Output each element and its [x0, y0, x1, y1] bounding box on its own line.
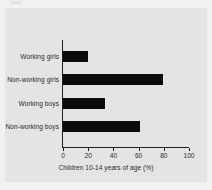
chart-figure: Working girls Non-working girls Working …: [0, 0, 212, 190]
x-axis-tick-label: 40: [103, 152, 123, 160]
y-axis-line: [62, 40, 63, 148]
category-label-3: Non-working boys: [0, 123, 59, 131]
category-label-text: Non-working girls: [1, 76, 59, 84]
x-axis-tick-label: 60: [129, 152, 149, 160]
bar-non-working-boys: [63, 121, 140, 132]
x-axis-tick: [113, 148, 114, 151]
x-axis-tick: [63, 148, 64, 151]
category-label-text: Working girls: [1, 53, 59, 61]
bar-working-boys: [63, 98, 105, 109]
x-axis-tick: [88, 148, 89, 151]
category-label-text: Working boys: [1, 100, 59, 108]
x-axis-tick-label: 0: [53, 152, 73, 160]
x-axis-tick: [164, 148, 165, 151]
category-label-1: Non-working girls: [0, 76, 59, 84]
x-axis-tick-label: 20: [78, 152, 98, 160]
x-axis-tick: [189, 148, 190, 151]
x-axis-label: Children 10-14 years of age (%): [0, 164, 212, 172]
category-label-0: Working girls: [0, 53, 59, 61]
x-axis-tick-label: 80: [154, 152, 174, 160]
category-label-text: Non-working boys: [1, 123, 59, 131]
plot-area: Working girls Non-working girls Working …: [0, 0, 212, 190]
bar-non-working-girls: [63, 74, 163, 85]
x-axis-line: [62, 147, 189, 148]
x-axis-tick: [139, 148, 140, 151]
bar-working-girls: [63, 51, 88, 62]
x-axis-tick-label: 100: [179, 152, 199, 160]
category-label-2: Working boys: [0, 100, 59, 108]
